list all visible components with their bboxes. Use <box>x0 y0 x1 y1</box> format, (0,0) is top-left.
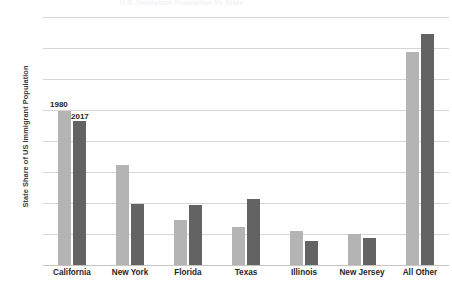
bar-group <box>43 17 101 265</box>
x-axis-label-new-jersey: New Jersey <box>333 268 391 278</box>
bar-all-other-2017 <box>421 34 434 265</box>
x-axis-label-all-other: All Other <box>391 268 449 278</box>
gridline-0% <box>43 265 449 266</box>
series-label-2017: 2017 <box>71 112 89 121</box>
bar-group <box>217 17 275 265</box>
x-axis-label-texas: Texas <box>217 268 275 278</box>
bar-group <box>275 17 333 265</box>
bar-all-other-1980 <box>406 52 419 265</box>
x-axis-label-new-york: New York <box>101 268 159 278</box>
bar-texas-1980 <box>232 227 245 265</box>
bar-illinois-2017 <box>305 241 318 265</box>
x-axis-label-california: California <box>43 268 101 278</box>
bar-new-jersey-2017 <box>363 238 376 265</box>
chart-title-remnant: U.S. Immigrant Population by State <box>120 0 300 6</box>
bar-new-york-2017 <box>131 204 144 265</box>
bar-group <box>391 17 449 265</box>
bar-new-jersey-1980 <box>348 234 361 265</box>
series-label-1980: 1980 <box>50 100 68 109</box>
bar-california-1980 <box>58 111 71 265</box>
bar-new-york-1980 <box>116 165 129 265</box>
plot-area: 40%35%30%25%20%15%10%5%0% <box>43 17 449 265</box>
bar-florida-1980 <box>174 220 187 265</box>
x-axis-label-florida: Florida <box>159 268 217 278</box>
bar-group <box>101 17 159 265</box>
x-axis-label-illinois: Illinois <box>275 268 333 278</box>
y-axis-title: State Share of US Immigrant Population <box>21 42 30 232</box>
immigrant-share-bar-chart: U.S. Immigrant Population by State State… <box>0 0 452 288</box>
bar-texas-2017 <box>247 199 260 265</box>
bar-group <box>333 17 391 265</box>
x-axis-labels: CaliforniaNew YorkFloridaTexasIllinoisNe… <box>43 268 449 286</box>
bar-florida-2017 <box>189 205 202 265</box>
bar-illinois-1980 <box>290 231 303 265</box>
bar-california-2017 <box>73 121 86 265</box>
bar-group <box>159 17 217 265</box>
